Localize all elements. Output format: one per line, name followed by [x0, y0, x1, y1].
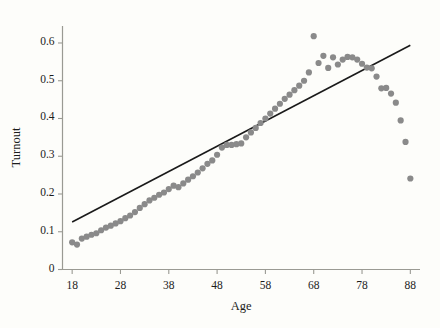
y-tick-label: 0.6: [40, 35, 54, 47]
x-tick-label: 88: [396, 279, 424, 291]
data-point: [330, 54, 336, 60]
data-point: [282, 96, 288, 102]
x-tick-label: 58: [251, 279, 279, 291]
y-tick-label: 0.2: [40, 186, 54, 198]
data-point: [407, 175, 413, 181]
data-point: [315, 60, 321, 66]
x-tick-label: 38: [155, 279, 183, 291]
x-tick-label: 18: [58, 279, 86, 291]
data-point: [286, 92, 292, 98]
data-point: [359, 61, 365, 67]
data-point: [272, 106, 278, 112]
data-point: [262, 115, 268, 121]
regression-line-segment: [72, 45, 410, 222]
data-point: [402, 139, 408, 145]
data-point: [214, 152, 220, 158]
data-point: [354, 56, 360, 62]
data-point: [175, 184, 181, 190]
x-tick-label: 28: [106, 279, 134, 291]
data-point: [195, 169, 201, 175]
data-point: [190, 173, 196, 179]
data-point: [253, 125, 259, 131]
data-point: [137, 205, 143, 211]
y-tick-label: 0.1: [40, 224, 54, 236]
data-point: [335, 61, 341, 67]
x-axis-label: Age: [211, 299, 271, 314]
data-point: [306, 69, 312, 75]
y-tick-label: 0.3: [40, 148, 54, 160]
data-point: [243, 134, 249, 140]
data-point: [398, 117, 404, 123]
data-point: [388, 90, 394, 96]
x-tick-label: 48: [203, 279, 231, 291]
data-point: [383, 85, 389, 91]
y-tick-label: 0.5: [40, 73, 54, 85]
data-point: [142, 201, 148, 207]
data-point: [311, 33, 317, 39]
data-point: [209, 157, 215, 163]
data-point: [257, 120, 263, 126]
data-point: [301, 78, 307, 84]
data-points: [69, 33, 413, 248]
data-point: [325, 65, 331, 71]
y-axis-label: Turnout: [9, 117, 24, 177]
data-point: [373, 73, 379, 79]
x-tick-label: 78: [348, 279, 376, 291]
data-point: [369, 65, 375, 71]
data-point: [248, 129, 254, 135]
y-tick-label: 0: [49, 262, 55, 274]
data-point: [74, 241, 80, 247]
y-tick-label: 0.4: [40, 110, 54, 122]
data-point: [132, 209, 138, 215]
data-point: [320, 53, 326, 59]
data-point: [296, 83, 302, 89]
data-point: [238, 140, 244, 146]
scatter-plot-figure: 00.10.20.30.40.50.6 1828384858687888 Tur…: [0, 0, 440, 328]
data-point: [277, 101, 283, 107]
x-tick-label: 68: [300, 279, 328, 291]
x-axis-ticks: [72, 270, 410, 275]
y-axis-ticks: [58, 43, 63, 270]
axes-group: [63, 26, 421, 270]
data-point: [291, 87, 297, 93]
regression-line: [72, 45, 410, 222]
data-point: [180, 180, 186, 186]
data-point: [267, 110, 273, 116]
data-point: [200, 165, 206, 171]
data-point: [393, 100, 399, 106]
